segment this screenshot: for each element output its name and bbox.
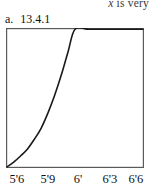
figure-caption: a.13.4.1 (5, 12, 50, 26)
cut-off-text-rest: is very (114, 0, 149, 9)
plot-area (6, 28, 144, 168)
cut-off-body-text: x is very (108, 0, 149, 9)
caption-letter: a. (5, 12, 13, 26)
xtick-label-4: 6'6 (129, 171, 144, 187)
xtick-label-1: 5'9 (41, 171, 56, 187)
xtick-label-2: 6' (74, 171, 83, 187)
xtick-label-0: 5'6 (10, 171, 25, 187)
x-axis-tick-labels: 5'6 5'9 6' 6'3 6'6 (0, 171, 151, 191)
plot-frame (7, 29, 144, 168)
figure-page: x is very a.13.4.1 5'6 5'9 6' 6'3 6'6 (0, 0, 151, 194)
caption-number: 13.4.1 (20, 12, 50, 26)
xtick-label-3: 6'3 (103, 171, 118, 187)
cdf-curve-chart (6, 28, 144, 168)
